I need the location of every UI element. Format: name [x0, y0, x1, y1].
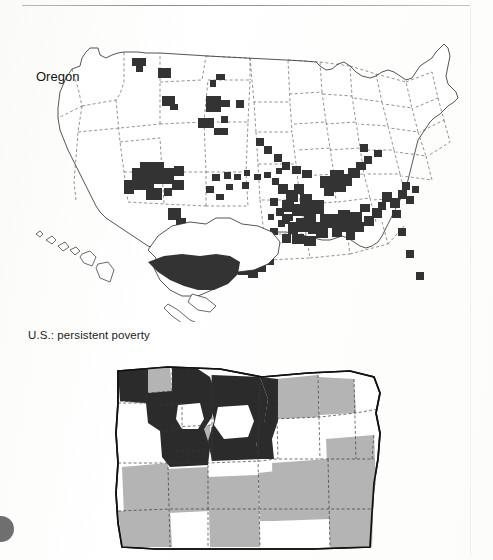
oregon-map-svg	[112, 363, 392, 555]
oregon-annotation-label: Oregon	[36, 69, 79, 84]
hawaii-inset	[36, 231, 114, 282]
us-map-svg	[20, 22, 470, 322]
top-horizontal-rule	[22, 5, 470, 6]
page-corner-bullet	[0, 516, 14, 542]
us-map-caption: U.S.: persistent poverty	[28, 329, 150, 341]
oregon-county-map	[112, 363, 392, 555]
us-persistent-poverty-map	[20, 22, 470, 322]
right-column-guide	[470, 8, 471, 556]
